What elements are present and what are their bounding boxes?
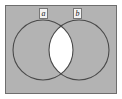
set-b-label: b xyxy=(73,8,82,19)
venn-diagram-figure: a b xyxy=(0,0,122,99)
venn-diagram-canvas xyxy=(0,0,122,99)
set-a-label: a xyxy=(39,8,48,19)
